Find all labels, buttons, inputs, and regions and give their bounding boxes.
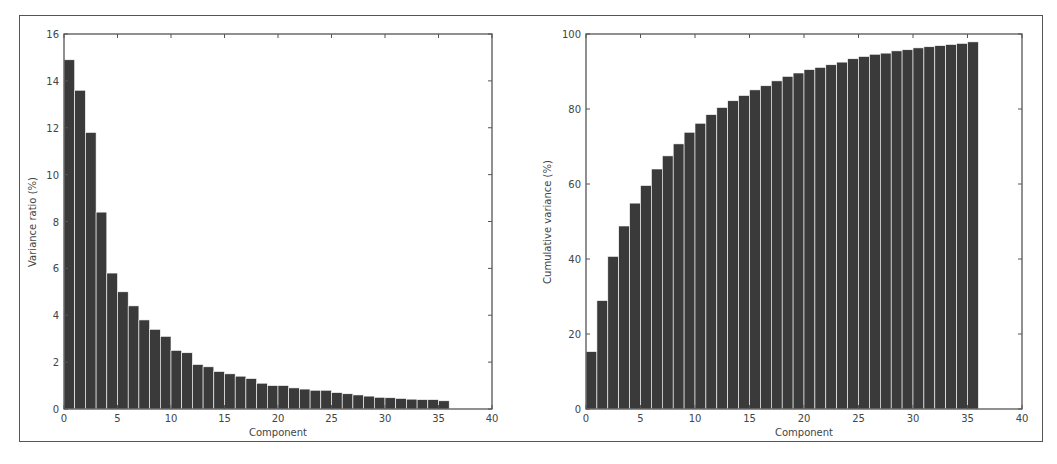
bar: Component 33: 97.2	[946, 45, 957, 410]
figure: Component 0: 14.9Component 1: 13.6Compon…	[0, 0, 1057, 464]
bar: Component 3: 8.4	[96, 212, 107, 409]
y-tick-label: 2	[53, 357, 59, 368]
cumulative-variance-chart: Component 0: 15.3Component 1: 28.9Compon…	[542, 29, 1028, 438]
x-tick-label: 5	[637, 413, 643, 424]
bar: Component 10: 2.5	[171, 350, 182, 409]
bar: Component 29: 95.8	[902, 50, 913, 409]
bar: Component 20: 90.5	[804, 70, 815, 409]
y-tick-label: 16	[46, 29, 59, 40]
y-tick-label: 0	[575, 404, 581, 415]
bar: Component 8: 3.4	[150, 329, 161, 409]
x-axis-label: Component	[249, 427, 307, 438]
bar: Component 1: 13.6	[75, 90, 86, 409]
bar: Component 35: 97.9	[968, 42, 979, 409]
x-tick-label: 25	[852, 413, 865, 424]
bar: Component 7: 3.8	[139, 320, 150, 409]
y-axis-label: Cumulative variance (%)	[542, 160, 553, 284]
bar: Component 13: 1.8	[203, 367, 214, 409]
variance-ratio-chart: Component 0: 14.9Component 1: 13.6Compon…	[27, 29, 498, 438]
bar: Component 21: 91.1	[815, 67, 826, 409]
bar: Component 2: 11.8	[85, 132, 96, 409]
bar: Component 22: 91.8	[826, 65, 837, 409]
bar: Component 25: 0.7	[332, 393, 343, 409]
y-tick-label: 0	[53, 404, 59, 415]
bar: Component 32: 96.9	[935, 46, 946, 409]
bar: Component 18: 88.7	[782, 76, 793, 409]
bar: Component 6: 4.4	[128, 306, 139, 409]
bar: Component 34: 0.4	[428, 400, 439, 409]
y-tick-label: 80	[568, 104, 581, 115]
x-tick-label: 20	[272, 413, 285, 424]
bar: Component 5: 59.6	[641, 186, 652, 410]
x-tick-label: 35	[432, 413, 445, 424]
x-tick-label: 5	[114, 413, 120, 424]
bar: Component 19: 89.6	[793, 73, 804, 409]
y-tick-label: 6	[53, 263, 59, 274]
bar: Component 14: 1.6	[214, 372, 225, 410]
bar: Component 20: 1	[278, 386, 289, 409]
x-tick-label: 15	[743, 413, 756, 424]
bar: Component 6: 64	[651, 169, 662, 409]
y-tick-label: 10	[46, 170, 59, 181]
x-tick-label: 0	[61, 413, 67, 424]
bar: Component 13: 82.2	[728, 101, 739, 409]
y-tick-label: 4	[53, 310, 59, 321]
bar: Component 1: 28.9	[597, 301, 608, 409]
bar: Component 18: 1.1	[257, 383, 268, 409]
bar: Component 28: 95.5	[891, 51, 902, 409]
x-tick-label: 30	[379, 413, 392, 424]
bar: Component 34: 97.5	[957, 43, 968, 409]
bar: Component 16: 1.4	[235, 376, 246, 409]
bar: Component 23: 92.5	[837, 62, 848, 409]
y-tick-label: 8	[53, 217, 59, 228]
bar: Component 31: 96.6	[924, 47, 935, 409]
bar: Component 2: 40.7	[608, 256, 619, 409]
y-axis-label: Variance ratio (%)	[27, 177, 38, 267]
bar: Component 16: 86.2	[760, 86, 771, 409]
y-tick-label: 14	[46, 76, 59, 87]
bar: Component 17: 1.3	[246, 379, 257, 409]
bar: Component 15: 85.1	[750, 90, 761, 409]
y-tick-label: 60	[568, 179, 581, 190]
bar: Component 25: 94	[859, 57, 870, 410]
bar: Component 4: 54.9	[630, 203, 641, 409]
y-tick-label: 40	[568, 254, 581, 265]
x-tick-label: 0	[583, 413, 589, 424]
bar: Component 0: 14.9	[64, 60, 75, 409]
bar: Component 29: 0.5	[374, 397, 385, 409]
bar: Component 35: 0.35	[439, 401, 450, 409]
x-axis-label: Component	[775, 427, 833, 438]
bar: Component 11: 2.4	[182, 353, 193, 409]
bar: Component 4: 5.8	[107, 273, 118, 409]
bar: Component 23: 0.8	[310, 390, 321, 409]
bar: Component 30: 96.3	[913, 48, 924, 409]
bar: Component 10: 76.2	[695, 123, 706, 409]
bar: Component 27: 94.9	[880, 53, 891, 409]
bar: Component 15: 1.5	[225, 374, 236, 409]
y-tick-label: 20	[568, 329, 581, 340]
bar: Component 21: 0.9	[289, 388, 300, 409]
x-tick-label: 20	[798, 413, 811, 424]
bar: Component 0: 15.3	[586, 352, 597, 409]
bar: Component 33: 0.4	[417, 400, 428, 409]
bar: Component 27: 0.6	[353, 395, 364, 409]
bar: Component 32: 0.42	[406, 399, 417, 409]
bar: Component 24: 0.8	[321, 390, 332, 409]
bar: Component 5: 5	[118, 292, 129, 409]
y-tick-label: 12	[46, 123, 59, 134]
x-tick-label: 10	[165, 413, 178, 424]
bar: Component 7: 67.5	[662, 156, 673, 409]
bar: Component 3: 48.8	[619, 226, 630, 409]
bar: Component 31: 0.45	[396, 398, 407, 409]
bar: Component 24: 93.4	[848, 59, 859, 409]
y-tick-label: 100	[562, 29, 581, 40]
x-tick-label: 25	[325, 413, 338, 424]
bar: Component 26: 94.6	[869, 54, 880, 409]
x-tick-label: 15	[218, 413, 231, 424]
x-tick-label: 10	[689, 413, 702, 424]
bar: Component 14: 83.6	[739, 96, 750, 410]
bar: Component 9: 73.8	[684, 132, 695, 409]
bar: Component 19: 1	[267, 386, 278, 409]
x-tick-label: 40	[1016, 413, 1029, 424]
bar: Component 12: 1.9	[192, 364, 203, 409]
